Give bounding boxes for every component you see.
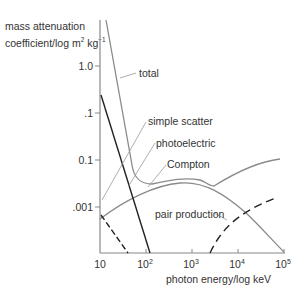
x-tick-label: 10 (94, 258, 106, 270)
x-tick-label: 104 (229, 258, 245, 270)
x-tick-label: 102 (137, 258, 153, 270)
y-tick-label: .1 (84, 107, 93, 119)
x-axis-label: photon energy/log keV (166, 273, 271, 285)
series-pair-production (210, 198, 276, 253)
label-pair-production: pair production (155, 208, 225, 220)
y-tick-label: .001 (73, 201, 94, 213)
leader-line-compton (148, 165, 166, 187)
label-compton: Compton (167, 158, 210, 170)
leader-line-total (120, 73, 136, 78)
y-ticks: 1.0 .1 0.1 .001 (73, 60, 100, 213)
series-simple-scatter (101, 215, 128, 253)
y-tick-label: 0.1 (78, 154, 93, 166)
chart-plot: 1.0 .1 0.1 .001 10 102 103 104 105 total… (0, 0, 308, 295)
label-simple-scatter: simple scatter (148, 115, 213, 127)
label-total: total (139, 67, 159, 79)
label-photoelectric: photoelectric (156, 137, 216, 149)
x-tick-label: 103 (183, 258, 199, 270)
x-tick-label: 105 (275, 258, 291, 270)
x-ticks: 10 102 103 104 105 (94, 249, 291, 270)
series-photoelectric (101, 95, 150, 253)
y-tick-label: 1.0 (78, 60, 93, 72)
leader-line-simple-scatter (102, 122, 146, 200)
